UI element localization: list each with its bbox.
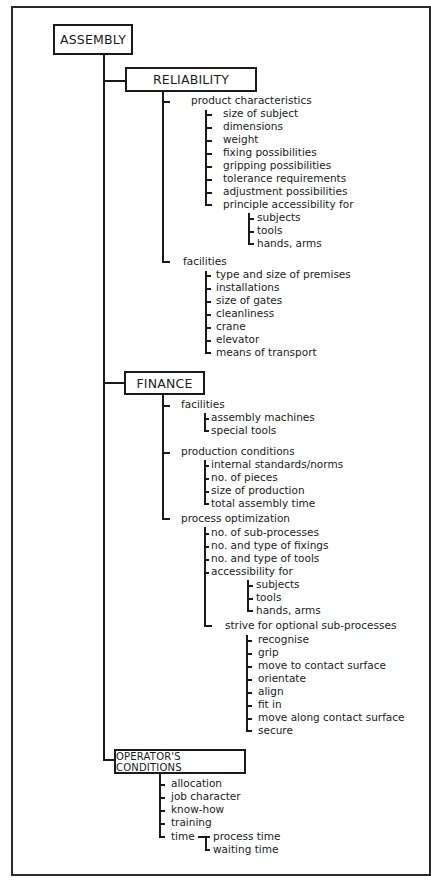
list-item: installations bbox=[216, 281, 279, 294]
tick bbox=[246, 705, 252, 707]
tick bbox=[246, 692, 252, 694]
tick bbox=[204, 625, 212, 627]
diagram-frame bbox=[11, 6, 431, 876]
list-item: dimensions bbox=[223, 120, 283, 133]
list-item: subjects bbox=[257, 211, 301, 224]
list-item: waiting time bbox=[213, 843, 278, 856]
tick bbox=[159, 784, 165, 786]
list-item: elevator bbox=[216, 333, 259, 346]
tick bbox=[205, 127, 212, 129]
tick bbox=[162, 261, 170, 263]
group-facilities: facilities bbox=[181, 398, 225, 411]
tick bbox=[159, 810, 165, 812]
list-item: internal standards/norms bbox=[211, 458, 343, 471]
tick bbox=[205, 166, 212, 168]
list-item: weight bbox=[223, 133, 258, 146]
list-item: allocation bbox=[171, 777, 222, 790]
list-item: size of subject bbox=[223, 107, 298, 120]
tick bbox=[204, 572, 209, 574]
connector-reliability bbox=[103, 80, 126, 82]
tick bbox=[162, 405, 170, 407]
tick bbox=[247, 610, 253, 612]
list-item: special tools bbox=[211, 424, 276, 437]
list-item: move to contact surface bbox=[258, 659, 386, 672]
tick bbox=[246, 666, 252, 668]
list-item: size of production bbox=[211, 484, 305, 497]
tick bbox=[204, 491, 209, 493]
list-item: secure bbox=[258, 724, 293, 737]
assembly-root-box: ASSEMBLY bbox=[53, 24, 133, 55]
tick bbox=[159, 823, 165, 825]
main-trunk-line bbox=[103, 55, 105, 761]
tick bbox=[204, 546, 209, 548]
tick bbox=[248, 218, 254, 220]
tick bbox=[246, 730, 252, 732]
reliability-box: RELIABILITY bbox=[125, 67, 257, 92]
list-item: align bbox=[258, 685, 284, 698]
tick bbox=[162, 518, 170, 520]
tick bbox=[246, 653, 252, 655]
tick bbox=[205, 849, 210, 851]
tick bbox=[159, 797, 165, 799]
list-item: tools bbox=[256, 591, 281, 604]
group-facilities: facilities bbox=[183, 255, 227, 268]
tick bbox=[205, 340, 211, 342]
tick bbox=[205, 179, 212, 181]
list-item: know-how bbox=[171, 803, 224, 816]
tick bbox=[247, 585, 253, 587]
list-item: hands, arms bbox=[256, 604, 321, 617]
tick bbox=[205, 352, 211, 354]
list-item: orientate bbox=[258, 672, 306, 685]
tick bbox=[247, 598, 253, 600]
assembly-label: ASSEMBLY bbox=[60, 32, 126, 47]
tick bbox=[204, 418, 209, 420]
process-optimization-line bbox=[204, 527, 206, 627]
tick bbox=[248, 231, 254, 233]
tick bbox=[246, 679, 252, 681]
list-item: time bbox=[171, 830, 195, 843]
group-product-characteristics: product characteristics bbox=[191, 94, 312, 107]
tick bbox=[204, 559, 209, 561]
list-item: size of gates bbox=[216, 294, 282, 307]
tick bbox=[246, 640, 252, 642]
tick bbox=[204, 533, 209, 535]
list-item: means of transport bbox=[216, 346, 317, 359]
list-item: fixing possibilities bbox=[223, 146, 317, 159]
connector-finance bbox=[103, 382, 125, 384]
tick bbox=[204, 478, 209, 480]
list-item: adjustment possibilities bbox=[223, 185, 347, 198]
list-item: hands, arms bbox=[257, 237, 322, 250]
list-item: training bbox=[171, 816, 212, 829]
group-process-optimization: process optimization bbox=[181, 512, 290, 525]
tick bbox=[205, 327, 211, 329]
list-item: no. and type of fixings bbox=[211, 539, 328, 552]
tick bbox=[246, 718, 252, 720]
list-item: no. of pieces bbox=[211, 471, 278, 484]
tick bbox=[205, 275, 211, 277]
tick bbox=[205, 301, 211, 303]
list-item: move along contact surface bbox=[258, 711, 405, 724]
finance-label: FINANCE bbox=[136, 376, 192, 391]
list-item: type and size of premises bbox=[216, 268, 351, 281]
list-item: total assembly time bbox=[211, 497, 315, 510]
list-item: job character bbox=[171, 790, 241, 803]
list-item: no. of sub-processes bbox=[211, 526, 319, 539]
group-strive-optional: strive for optional sub-processes bbox=[225, 619, 396, 632]
reliability-label: RELIABILITY bbox=[153, 72, 229, 87]
list-item: fit in bbox=[258, 698, 282, 711]
list-item: process time bbox=[213, 830, 280, 843]
tick bbox=[162, 101, 170, 103]
tick bbox=[205, 288, 211, 290]
list-item: tolerance requirements bbox=[223, 172, 346, 185]
list-item: recognise bbox=[258, 633, 309, 646]
tick bbox=[205, 204, 212, 206]
tick bbox=[204, 430, 209, 432]
list-item: crane bbox=[216, 320, 246, 333]
tick bbox=[205, 153, 212, 155]
list-item: principle accessibility for bbox=[223, 198, 353, 211]
tick bbox=[205, 314, 211, 316]
tick bbox=[205, 114, 212, 116]
operators-conditions-label: OPERATOR'S CONDITIONS bbox=[116, 751, 244, 773]
tick bbox=[248, 243, 254, 245]
list-item: tools bbox=[257, 224, 282, 237]
